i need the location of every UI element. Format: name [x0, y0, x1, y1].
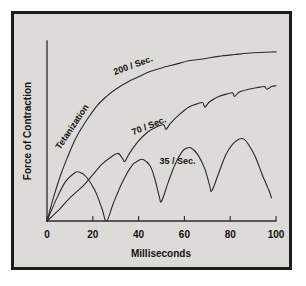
x-tick-label: 80 [225, 229, 237, 240]
x-tick-marks [47, 216, 276, 221]
x-axis-title: Milliseconds [131, 248, 191, 259]
annotation-70-per-sec: 70 / Sec. [130, 114, 167, 137]
plot-field: 020406080100 Tetanization 200 / Sec. 70 … [14, 14, 289, 267]
x-tick-labels: 020406080100 [44, 229, 285, 240]
x-tick-label: 60 [179, 229, 191, 240]
curve-35-per-sec [47, 138, 271, 221]
x-tick-label: 100 [268, 229, 285, 240]
figure-root: 020406080100 Tetanization 200 / Sec. 70 … [0, 0, 306, 286]
curve-200-per-sec [47, 52, 276, 221]
x-tick-label: 40 [133, 229, 145, 240]
annotation-35-per-sec: 35 / Sec. [160, 156, 196, 166]
annotation-200-per-sec: 200 / Sec. [112, 53, 154, 76]
x-tick-label: 20 [87, 229, 99, 240]
muscle-tetanization-chart: 020406080100 Tetanization 200 / Sec. 70 … [14, 14, 289, 267]
annotation-tetanization: Tetanization [53, 102, 90, 151]
y-axis-title: Force of Contraction [22, 82, 33, 180]
figure-frame: 020406080100 Tetanization 200 / Sec. 70 … [11, 11, 292, 270]
x-tick-label: 0 [44, 229, 50, 240]
